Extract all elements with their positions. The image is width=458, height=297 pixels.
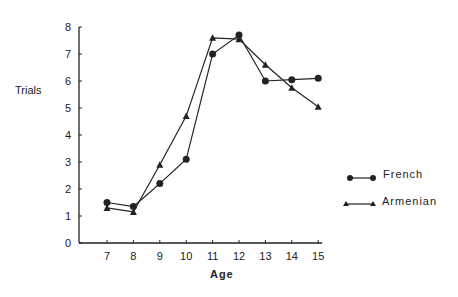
legend-label-armenian: Armenian bbox=[382, 195, 437, 207]
circle-marker bbox=[315, 75, 322, 82]
series-line-french bbox=[107, 35, 318, 206]
circle-marker bbox=[183, 156, 190, 163]
x-tick-label: 15 bbox=[312, 250, 324, 262]
series-line-armenian bbox=[107, 38, 318, 212]
y-tick-label: 3 bbox=[65, 156, 71, 168]
triangle-marker bbox=[104, 204, 111, 211]
y-tick-label: 0 bbox=[65, 237, 71, 249]
y-tick-label: 6 bbox=[65, 75, 71, 87]
y-axis-label: Trials bbox=[15, 84, 42, 96]
x-tick-label: 7 bbox=[104, 250, 110, 262]
x-tick-label: 8 bbox=[130, 250, 136, 262]
line-chart: 012345678789101112131415TrialsAgeFrenchA… bbox=[0, 0, 458, 297]
circle-icon bbox=[347, 175, 353, 181]
x-tick-label: 14 bbox=[286, 250, 298, 262]
y-tick-label: 1 bbox=[65, 210, 71, 222]
x-tick-label: 10 bbox=[180, 250, 192, 262]
legend-label-french: French bbox=[383, 168, 423, 180]
chart: 012345678789101112131415TrialsAgeFrenchA… bbox=[0, 0, 458, 297]
triangle-marker bbox=[156, 161, 163, 168]
x-axis-label: Age bbox=[210, 268, 234, 280]
y-tick-label: 7 bbox=[65, 48, 71, 60]
circle-icon bbox=[370, 175, 376, 181]
y-tick-label: 8 bbox=[65, 21, 71, 33]
circle-marker bbox=[288, 76, 295, 83]
y-tick-label: 5 bbox=[65, 102, 71, 114]
circle-marker bbox=[209, 51, 216, 58]
x-tick-label: 11 bbox=[207, 250, 218, 262]
circle-marker bbox=[262, 78, 269, 85]
x-tick-label: 9 bbox=[157, 250, 163, 262]
y-tick-label: 4 bbox=[65, 129, 71, 141]
triangle-marker bbox=[315, 103, 322, 110]
y-tick-label: 2 bbox=[65, 183, 71, 195]
circle-marker bbox=[156, 180, 163, 187]
triangle-marker bbox=[183, 113, 190, 120]
x-tick-label: 12 bbox=[233, 250, 245, 262]
x-tick-label: 13 bbox=[259, 250, 271, 262]
